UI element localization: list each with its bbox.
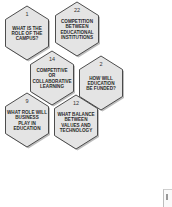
hexagon-label-line: EDUCATION [88,81,116,86]
hexagon-label-line: BETWEEN [65,117,89,122]
hexagon-number: 2 [99,61,102,67]
hexagon-label-line: LEARNING [40,84,64,89]
hexagon-label-line: EDUCATION [14,126,42,131]
hexagon-label-line: TECHNOLOGY [60,128,92,133]
hexagon-label-line: ROLE OF THE [12,31,43,36]
hexagon-label-line: BE FUNDED? [86,86,116,91]
hexagon-label-line: OR [49,73,57,78]
hexagon-number: 9 [25,98,28,104]
hexagon-label-line: CAMPUS? [16,36,39,41]
partial-box-mark [166,194,168,200]
hexagon-label-line: INSTITUTIONS [61,35,93,40]
hexagon-diagram: 1WHAT IS THEROLE OF THECAMPUS?22COMPETIT… [0,0,172,207]
hexagon-number: 22 [74,7,80,13]
hexagon-number: 14 [49,56,55,62]
hexagon-label-line: WHAT ROLE WILL [7,110,47,115]
hexagon-label-line: BUSINESS [15,115,39,120]
hexagon-label-line: WHAT BALANCE [57,112,94,117]
hexagon-label-line: PLAY IN [18,121,36,126]
hexagon-label-line: HOW WILL [89,76,113,81]
partial-box-edge [163,189,172,207]
hexagon-label-line: EDUCATIONAL [60,30,93,35]
hexagon-label-line: WHAT IS THE [12,26,42,31]
hexagon-number: 1 [25,11,28,17]
hexagon-label-line: COLLABORATIVE [32,79,71,84]
hexagon-number: 12 [73,100,79,106]
hexagon-label-line: BETWEEN [66,24,90,29]
hexagon-label-line: COMPETITION [61,19,94,24]
hexagon-label-line: COMPETITIVE [36,68,67,73]
hexagon-label-line: VALUES AND [61,123,91,128]
